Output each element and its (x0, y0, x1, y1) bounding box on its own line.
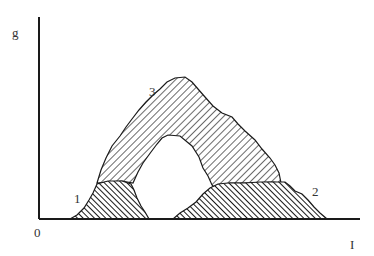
region-1-label: 1 (74, 191, 81, 206)
region-2-label: 2 (312, 184, 319, 199)
x-axis-label: I (350, 237, 354, 252)
phase-diagram: g 0 I 1 2 3 (0, 0, 374, 256)
region-3-label: 3 (149, 84, 156, 99)
y-axis-label: g (12, 25, 19, 40)
region-1 (70, 181, 149, 219)
region-3 (97, 77, 281, 189)
origin-label: 0 (34, 225, 41, 240)
region-2 (173, 182, 327, 219)
